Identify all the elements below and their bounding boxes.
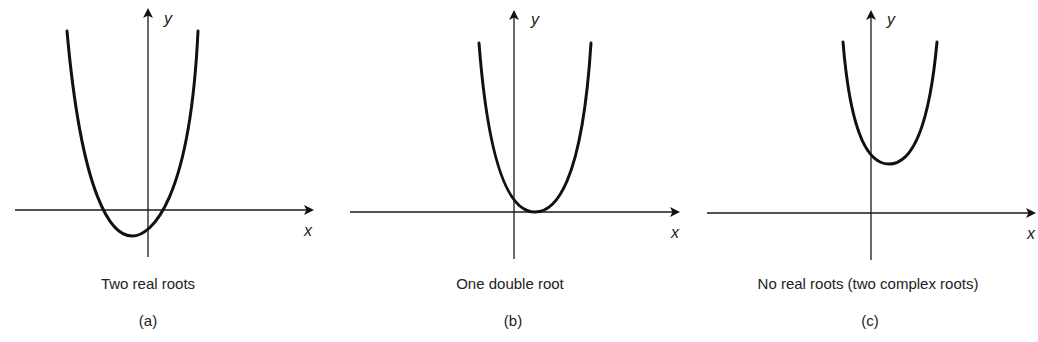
quadratic-roots-figure: y x Two real roots (a) y x One double ro…: [0, 0, 1038, 342]
x-axis-label: x: [303, 222, 313, 239]
parabola-double-root: [479, 43, 591, 212]
panel-b: y x One double root (b): [350, 11, 680, 329]
panel-letter: (c): [861, 312, 879, 329]
y-axis-label: y: [530, 11, 540, 28]
parabola-two-roots: [67, 31, 198, 236]
x-axis-label: x: [670, 224, 680, 241]
x-axis-label: x: [1026, 225, 1036, 242]
y-axis-label: y: [163, 10, 173, 27]
y-axis-label: y: [886, 11, 896, 28]
panel-letter: (b): [504, 312, 522, 329]
panel-caption: One double root: [456, 275, 564, 292]
panel-caption: Two real roots: [101, 275, 195, 292]
panel-letter: (a): [139, 312, 157, 329]
panel-a: y x Two real roots (a): [15, 10, 313, 329]
panel-caption: No real roots (two complex roots): [758, 275, 979, 292]
panel-c: y x No real roots (two complex roots) (c…: [707, 11, 1036, 329]
parabola-no-real-roots: [843, 42, 937, 164]
